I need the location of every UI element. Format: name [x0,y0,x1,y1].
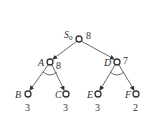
and-or-tree-diagram: S0 8 A 8 D 7 B 3 C 3 E 3 F 2 [0,0,153,117]
node-e [95,91,101,97]
value-b: 3 [25,102,30,113]
value-s0: 8 [86,30,91,41]
value-c: 3 [63,102,68,113]
and-arc-d [110,72,124,75]
label-c: C [55,89,62,100]
node-f [133,91,139,97]
edge-s0-a [53,41,77,59]
node-a [47,59,53,65]
value-e: 3 [95,102,100,113]
edge-d-f [119,65,134,90]
value-f: 2 [133,102,138,113]
edge-d-e [100,65,115,90]
value-d: 7 [123,55,128,66]
value-a: 8 [56,60,61,71]
node-s0 [76,36,82,42]
label-e: E [86,89,93,100]
label-d: D [103,57,112,68]
node-d [114,59,120,65]
label-f: F [124,89,132,100]
edge-a-b [30,65,48,90]
label-b: B [15,89,21,100]
label-a: A [37,57,45,68]
node-b [25,91,31,97]
node-c [63,91,69,97]
and-arc-a [43,72,57,75]
label-s0: S0 [64,29,73,42]
